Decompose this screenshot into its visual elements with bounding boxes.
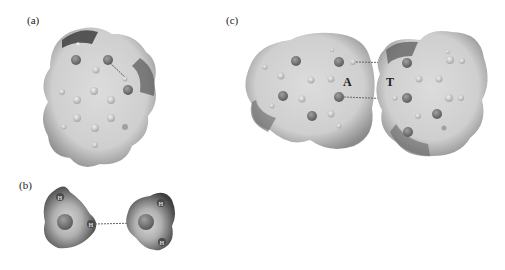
panel-a-surface	[43, 27, 156, 166]
hydrogen-label: H	[89, 222, 94, 228]
base-label-thymine: T	[386, 75, 394, 89]
panel-b-water-dimer: H H H H	[44, 186, 175, 250]
base-label-adenine: A	[343, 75, 352, 89]
figure-graphics: H H H H A	[0, 0, 505, 270]
panel-c-adenine: A	[245, 33, 374, 149]
panel-c-thymine: T	[376, 31, 487, 156]
hydrogen-label: H	[159, 201, 164, 207]
hydrogen-label: H	[58, 195, 63, 201]
hydrogen-label: H	[160, 240, 165, 246]
